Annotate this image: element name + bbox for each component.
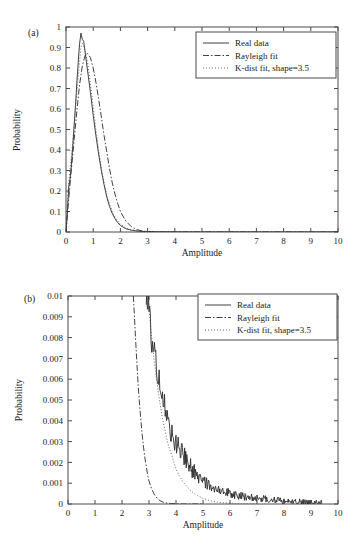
y-tick-label: 0.006 [43,374,64,384]
y-tick-label: 0.008 [43,333,64,343]
y-tick-label: 0.2 [50,186,61,196]
y-tick-label: 0.001 [43,478,63,488]
curve-rayleigh-fit [66,54,338,232]
y-tick-label: 0 [59,499,64,509]
legend-label-rayleigh: Rayleigh fit [237,313,280,323]
x-tick-label: 10 [334,508,344,518]
x-tick-label: 3 [147,508,152,518]
y-tick-label: 0.002 [43,458,63,468]
y-tick-label: 0 [57,227,62,237]
x-tick-label: 2 [118,236,123,246]
x-tick-label: 5 [201,508,206,518]
x-tick-label: 5 [200,236,205,246]
x-tick-label: 6 [227,236,232,246]
x-tick-label: 2 [120,508,125,518]
x-tick-label: 0 [66,508,71,518]
panel-a-ylabel: Probability [12,109,22,151]
y-tick-label: 0.8 [50,63,62,73]
x-tick-label: 8 [281,236,286,246]
legend-label-real: Real data [237,300,271,310]
legend-label-real: Real data [235,38,269,48]
x-tick-label: 9 [309,508,314,518]
y-tick-label: 0.9 [50,43,62,53]
x-tick-label: 1 [93,508,98,518]
x-tick-label: 1 [91,236,96,246]
x-tick-label: 0 [64,236,69,246]
y-tick-label: 0.004 [43,416,64,426]
x-tick-label: 3 [145,236,150,246]
panel-b-ylabel: Probability [14,379,24,421]
y-tick-label: 0.009 [43,312,64,322]
x-tick-label: 7 [255,508,260,518]
panel-b-svg: (b) 00.0010.0020.0030.0040.0050.0060.007… [0,272,356,548]
y-tick-label: 0.01 [47,291,63,301]
y-tick-label: 0.3 [50,166,62,176]
x-tick-label: 9 [309,236,314,246]
panel-a-legend: Real dataRayleigh fitK-dist fit, shape=3… [196,32,336,78]
x-tick-label: 4 [173,236,178,246]
panel-b: (b) 00.0010.0020.0030.0040.0050.0060.007… [0,272,356,548]
panel-a: (a) 00.10.20.30.40.50.60.70.80.91 012345… [0,0,356,268]
legend-label-rayleigh: Rayleigh fit [235,51,278,61]
y-tick-label: 0.003 [43,437,64,447]
y-tick-label: 0.5 [50,125,62,135]
panel-b-xlabel: Amplitude [183,520,224,530]
panel-b-legend: Real dataRayleigh fitK-dist fit, shape=3… [198,294,337,340]
panel-a-svg: (a) 00.10.20.30.40.50.60.70.80.91 012345… [0,0,356,268]
panel-a-xlabel: Amplitude [182,248,223,258]
y-tick-label: 0.4 [50,145,62,155]
legend-label-kdist: K-dist fit, shape=3.5 [235,63,310,73]
x-tick-label: 6 [228,508,233,518]
panel-a-label: (a) [28,28,39,39]
x-tick-label: 8 [282,508,287,518]
panel-b-label: (b) [24,294,35,305]
legend-label-kdist: K-dist fit, shape=3.5 [237,325,312,335]
y-tick-label: 0.005 [43,395,64,405]
figure-container: (a) 00.10.20.30.40.50.60.70.80.91 012345… [0,0,356,548]
y-tick-label: 0.7 [50,84,62,94]
x-tick-label: 10 [334,236,344,246]
x-tick-label: 7 [254,236,259,246]
y-tick-label: 1 [57,22,62,32]
x-tick-label: 4 [174,508,179,518]
y-tick-label: 0.6 [50,104,62,114]
y-tick-label: 0.1 [50,207,61,217]
y-tick-label: 0.007 [43,354,64,364]
